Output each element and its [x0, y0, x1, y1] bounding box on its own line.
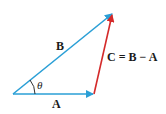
label-theta: θ [37, 79, 43, 91]
angle-arc [30, 80, 35, 94]
label-b: B [56, 39, 64, 53]
label-a: A [52, 97, 61, 111]
vector-diagram: B C = B − A θ A [0, 0, 166, 114]
label-c: C = B − A [107, 50, 158, 64]
